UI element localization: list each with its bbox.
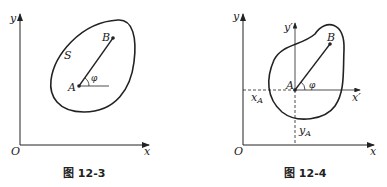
xa-sub: A bbox=[256, 96, 263, 105]
origin-label: O bbox=[11, 145, 20, 158]
ya-label: yA bbox=[298, 124, 311, 138]
angle-label: φ bbox=[91, 73, 98, 83]
diagram-canvas: y x O A B S φ 图 12-3 y x O y′ x′ A B φ x… bbox=[0, 0, 387, 187]
ya-sub: A bbox=[304, 129, 311, 138]
point-b bbox=[111, 36, 115, 40]
figure-caption: 图 12-3 bbox=[63, 167, 105, 180]
figure-caption: 图 12-4 bbox=[284, 167, 327, 180]
y-axis-label: y bbox=[232, 10, 240, 23]
angle-arc bbox=[301, 82, 305, 90]
body-s-label: S bbox=[64, 49, 72, 62]
point-a bbox=[77, 84, 81, 88]
y-axis-label: y bbox=[9, 12, 17, 25]
x-prime-label: x′ bbox=[352, 91, 361, 104]
y-prime-label: y′ bbox=[283, 21, 293, 34]
point-b-label: B bbox=[326, 31, 335, 44]
angle-arc bbox=[85, 78, 89, 86]
point-b-label: B bbox=[101, 31, 110, 44]
figure-12-4: y x O y′ x′ A B φ xA yA 图 12-4 bbox=[232, 10, 377, 180]
angle-label: φ bbox=[309, 80, 316, 90]
point-a-label: A bbox=[285, 79, 294, 92]
origin-label: O bbox=[234, 145, 243, 158]
x-axis-label: x bbox=[144, 145, 151, 158]
figure-12-3: y x O A B S φ 图 12-3 bbox=[9, 12, 151, 180]
x-axis-label: x bbox=[370, 145, 377, 158]
xa-label: xA bbox=[251, 91, 263, 105]
point-a-label: A bbox=[67, 81, 76, 94]
